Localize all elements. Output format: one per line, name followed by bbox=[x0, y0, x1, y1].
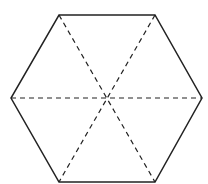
dashed-diagonals bbox=[11, 15, 202, 182]
hexagon-diagram bbox=[0, 0, 208, 184]
